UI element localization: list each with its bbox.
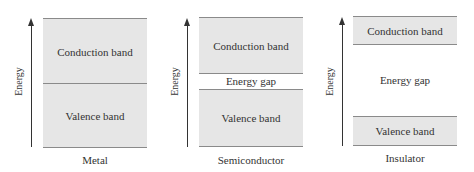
conduction-band: Conduction band bbox=[353, 16, 457, 45]
panel-caption: Semiconductor bbox=[199, 154, 303, 166]
energy-axis-arrow bbox=[31, 24, 32, 147]
insulator-panel: Energy Conduction band Energy gap Valenc… bbox=[310, 0, 474, 172]
energy-axis-arrow bbox=[342, 23, 343, 146]
semiconductor-panel: Energy Conduction band Energy gap Valenc… bbox=[155, 0, 315, 172]
energy-gap-label: Energy gap bbox=[199, 75, 303, 87]
conduction-band: Conduction band bbox=[43, 18, 147, 84]
panel-caption: Metal bbox=[43, 154, 147, 166]
metal-panel: Energy Conduction band Valence band Meta… bbox=[0, 0, 160, 172]
conduction-band: Conduction band bbox=[199, 17, 303, 74]
energy-gap-label: Energy gap bbox=[353, 74, 457, 86]
energy-axis-label: Energy bbox=[13, 62, 24, 102]
valence-band: Valence band bbox=[353, 116, 457, 146]
valence-band: Valence band bbox=[199, 89, 303, 147]
energy-axis-arrow bbox=[187, 24, 188, 147]
energy-axis-label: Energy bbox=[169, 62, 180, 102]
panel-caption: Insulator bbox=[353, 152, 457, 164]
energy-axis-label: Energy bbox=[324, 62, 335, 102]
valence-band: Valence band bbox=[43, 83, 147, 148]
